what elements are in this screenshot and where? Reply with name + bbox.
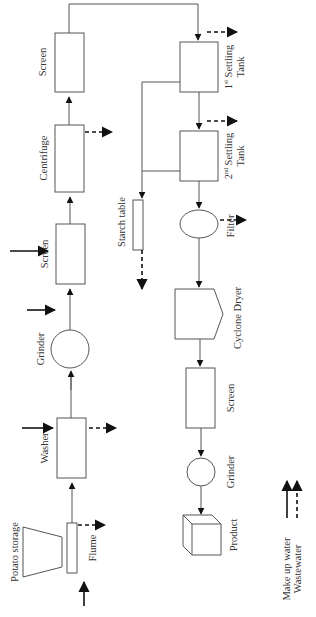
legend-wastewater-label: Wastewater (292, 544, 303, 593)
filter-label: Filter (225, 214, 236, 237)
settling-tank-2-node: 2nd Settling Tank (180, 131, 246, 181)
screen-3-node: Screen (186, 368, 236, 428)
settling-tank-1-label: 1st Settling (223, 44, 234, 89)
process-flow-diagram: Potato storage Flume Washer Grinder Scre… (0, 0, 316, 617)
potato-storage-label: Potato storage (9, 522, 20, 582)
potato-storage-node: Potato storage (9, 522, 62, 582)
washer-label: Washer (39, 432, 50, 464)
washer-node: Washer (39, 418, 86, 478)
screen-1-label: Screen (39, 239, 50, 268)
centrifuge-label: Centrifuge (38, 135, 49, 180)
flume-node: Flume (67, 523, 98, 573)
screen-1-node: Screen (39, 224, 85, 284)
tank1-to-starch-table-connector (142, 82, 180, 198)
grinder-1-node: Grinder (35, 330, 89, 368)
grinder-2-node: Grinder (187, 455, 236, 488)
settling-tank-1-label-line2: Tank (235, 56, 246, 78)
settling-tank-2-label: 2nd Settling (223, 132, 234, 179)
cyclone-dryer-node: Cyclone Dryer (175, 286, 243, 349)
cyclone-dryer-label: Cyclone Dryer (232, 286, 243, 349)
legend-makeup-water-label: Make up water (281, 537, 292, 600)
settling-tank-2-label-line2: Tank (235, 145, 246, 167)
screen-2-node: Screen (37, 33, 84, 92)
starch-table-label: Starch table (116, 197, 127, 247)
grinder-1-label: Grinder (35, 332, 46, 365)
legend: Make up water Wastewater (281, 481, 303, 600)
flume-label: Flume (87, 534, 98, 561)
settling-tank-1-node: 1st Settling Tank (180, 42, 246, 92)
grinder-2-label: Grinder (225, 455, 236, 488)
starch-table-node: Starch table (116, 197, 143, 250)
screen-2-label: Screen (37, 47, 48, 76)
filter-node: Filter (180, 210, 236, 238)
centrifuge-node: Centrifuge (38, 125, 84, 192)
screen-3-label: Screen (225, 383, 236, 412)
screen-to-settling-tank-connector (69, 4, 198, 40)
product-label: Product (228, 519, 239, 552)
product-node: Product (183, 515, 239, 555)
